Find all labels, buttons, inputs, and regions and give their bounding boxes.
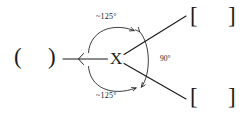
- left-group-close-paren: ): [48, 45, 56, 68]
- upper-right-group-close-bracket: ]: [228, 4, 236, 27]
- lower-right-group-close-bracket: ]: [228, 85, 236, 108]
- left-group-open-paren: (: [14, 45, 22, 68]
- angle-label-right: 90°: [160, 55, 171, 63]
- bond-angle-svg: [0, 0, 250, 115]
- center-atom-label: X: [110, 50, 122, 67]
- upper-right-group-open-bracket: [: [190, 4, 198, 27]
- diagram-canvas: X ~125° ~125° 90° ( ) [ ] [ ]: [0, 0, 250, 115]
- bond-upper-right: [124, 16, 186, 55]
- lower-right-group-open-bracket: [: [190, 85, 198, 108]
- angle-arc-bottom: [89, 67, 137, 92]
- bond-lower-right: [124, 64, 186, 100]
- angle-label-bottom: ~125°: [96, 92, 117, 100]
- angle-label-top: ~125°: [96, 13, 117, 21]
